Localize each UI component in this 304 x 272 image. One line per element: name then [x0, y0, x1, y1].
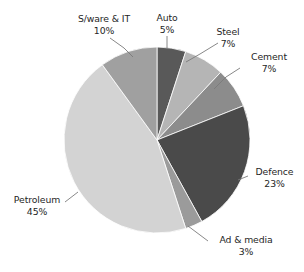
slice-label-auto-pct: 5% — [143, 24, 191, 36]
slice-label-sware-it-pct: 10% — [58, 25, 150, 37]
pie-chart: S/ware & IT 10% Auto 5% Steel 7% Cement … — [0, 0, 304, 272]
slice-label-sware-it-name: S/ware & IT — [78, 13, 130, 24]
slice-label-cement-pct: 7% — [238, 63, 300, 75]
pie-chart-canvas — [0, 0, 304, 272]
slice-label-auto-name: Auto — [156, 12, 177, 23]
leader-line-ad-media — [188, 226, 208, 241]
slice-label-ad-media: Ad & media 3% — [207, 234, 285, 257]
slice-label-steel-name: Steel — [216, 26, 239, 37]
slice-label-ad-media-pct: 3% — [207, 246, 285, 258]
slice-label-petroleum: Petroleum 45% — [8, 194, 66, 217]
slice-label-defence: Defence 23% — [245, 166, 304, 189]
slice-label-steel-pct: 7% — [203, 38, 253, 50]
leader-line-petroleum — [65, 192, 78, 202]
slice-label-sware-it: S/ware & IT 10% — [58, 13, 150, 36]
slice-label-defence-pct: 23% — [245, 178, 304, 190]
slice-label-defence-name: Defence — [256, 166, 294, 177]
slice-label-cement: Cement 7% — [238, 51, 300, 74]
slice-label-auto: Auto 5% — [143, 12, 191, 35]
slice-label-ad-media-name: Ad & media — [219, 234, 272, 245]
slice-label-steel: Steel 7% — [203, 26, 253, 49]
slice-label-petroleum-name: Petroleum — [14, 194, 60, 205]
slice-label-petroleum-pct: 45% — [8, 206, 66, 218]
pie-slices-group — [64, 47, 250, 233]
slice-label-cement-name: Cement — [251, 51, 287, 62]
